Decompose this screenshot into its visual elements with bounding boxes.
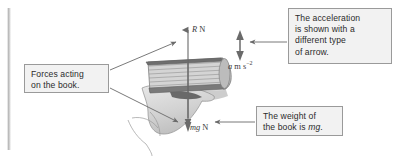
- acceleration-arrow: [236, 30, 244, 61]
- acceleration-unit: m s: [234, 62, 246, 71]
- callout-forces: Forces acting on the book.: [24, 64, 109, 93]
- book-illustration: [128, 58, 231, 156]
- weight-unit: N: [202, 123, 208, 132]
- physics-force-diagram: R N a m s−2 mg N The acceleration is sho…: [0, 0, 396, 156]
- acceleration-label: a m s−2: [228, 62, 253, 71]
- callout-weight: The weight of the book is mg.: [256, 106, 343, 136]
- reaction-force-label: R N: [192, 25, 205, 34]
- page-margin-bar: [7, 8, 11, 150]
- weight-symbol: mg: [190, 123, 200, 132]
- callout-acceleration: The acceleration is shown with a differe…: [288, 8, 392, 64]
- acceleration-exponent: −2: [246, 60, 252, 66]
- callout-weight-text-after: .: [320, 122, 323, 132]
- callout-weight-symbol: mg: [308, 122, 320, 132]
- reaction-unit: N: [199, 25, 205, 34]
- weight-force-label: mg N: [190, 123, 208, 132]
